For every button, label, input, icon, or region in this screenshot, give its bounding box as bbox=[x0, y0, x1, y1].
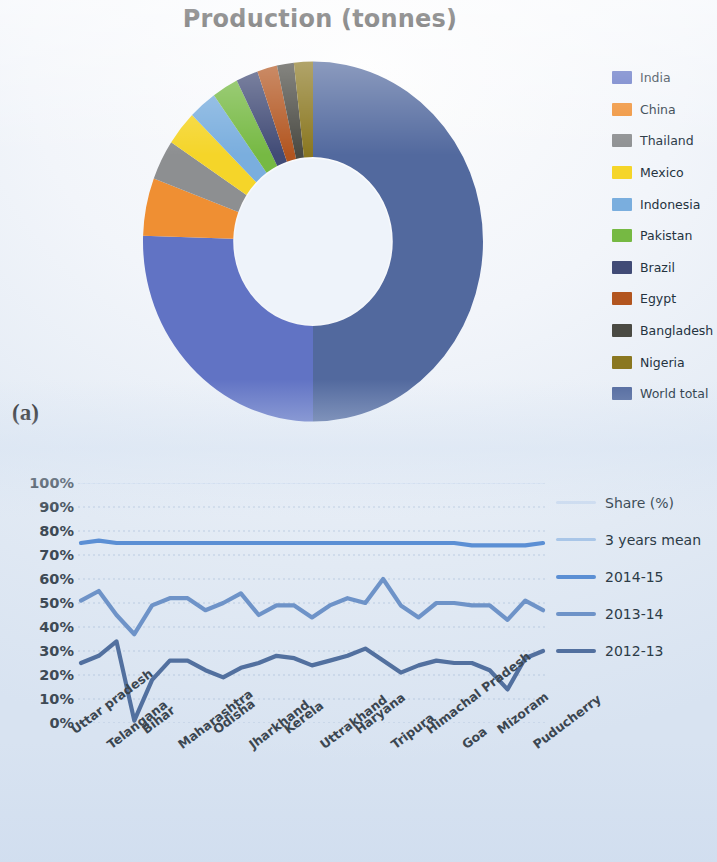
page-title: Production (tonnes) bbox=[0, 5, 640, 33]
legend-swatch-icon bbox=[612, 166, 632, 179]
pie-legend-item[interactable]: Indonesia bbox=[612, 188, 717, 220]
y-axis-tick-label: 70% bbox=[18, 547, 74, 563]
pie-legend-item[interactable]: Nigeria bbox=[612, 346, 717, 378]
legend-swatch-icon bbox=[612, 387, 632, 400]
line-legend-label: 3 years mean bbox=[605, 532, 701, 548]
y-axis-tick-label: 50% bbox=[18, 595, 74, 611]
panel-b-line-chart: 100%90%80%70%60%50%40%30%20%10%0% Uttar … bbox=[0, 448, 717, 862]
legend-swatch-icon bbox=[612, 198, 632, 211]
pie-legend-label: Bangladesh bbox=[640, 323, 713, 338]
line-legend-item[interactable]: 2012-13 bbox=[556, 632, 716, 669]
pie-legend-label: Brazil bbox=[640, 260, 675, 275]
pie-legend-item[interactable]: Thailand bbox=[612, 125, 717, 157]
legend-line-icon bbox=[556, 575, 596, 579]
donut-chart-svg bbox=[78, 44, 548, 439]
line-legend-label: 2012-13 bbox=[605, 643, 664, 659]
y-axis-tick-label: 100% bbox=[18, 475, 74, 491]
y-axis-tick-label: 20% bbox=[18, 667, 74, 683]
line-legend-label: 2013-14 bbox=[605, 606, 664, 622]
y-axis-tick-label: 30% bbox=[18, 643, 74, 659]
line-legend-item[interactable]: 2013-14 bbox=[556, 595, 716, 632]
pie-legend-item[interactable]: India bbox=[612, 62, 717, 94]
y-axis-tick-label: 40% bbox=[18, 619, 74, 635]
line-legend-item[interactable]: Share (%) bbox=[556, 484, 716, 521]
pie-legend: IndiaChinaThailandMexicoIndonesiaPakista… bbox=[612, 62, 717, 410]
legend-swatch-icon bbox=[612, 292, 632, 305]
line-legend: Share (%)3 years mean2014-152013-142012-… bbox=[556, 484, 716, 669]
legend-swatch-icon bbox=[612, 71, 632, 84]
legend-swatch-icon bbox=[612, 356, 632, 369]
x-axis-ticks: Uttar pradeshTelanganaBiharMaharashtraOd… bbox=[0, 716, 600, 862]
x-axis-tick-label: Goa bbox=[459, 724, 490, 752]
y-axis-tick-label: 90% bbox=[18, 499, 74, 515]
panel-a-label: (a) bbox=[12, 400, 39, 426]
pie-legend-label: China bbox=[640, 102, 676, 117]
pie-legend-label: Nigeria bbox=[640, 355, 685, 370]
pie-legend-item[interactable]: Pakistan bbox=[612, 220, 717, 252]
legend-swatch-icon bbox=[612, 134, 632, 147]
line-series bbox=[81, 579, 543, 634]
pie-legend-item[interactable]: Mexico bbox=[612, 157, 717, 189]
y-axis-tick-label: 10% bbox=[18, 691, 74, 707]
y-axis-ticks: 100%90%80%70%60%50%40%30%20%10%0% bbox=[18, 476, 74, 730]
legend-swatch-icon bbox=[612, 229, 632, 242]
pie-legend-item[interactable]: Brazil bbox=[612, 252, 717, 284]
pie-legend-item[interactable]: Egypt bbox=[612, 283, 717, 315]
line-legend-item[interactable]: 2014-15 bbox=[556, 558, 716, 595]
pie-legend-item[interactable]: Bangladesh bbox=[612, 315, 717, 347]
y-axis-tick-label: 80% bbox=[18, 523, 74, 539]
pie-legend-label: World total bbox=[640, 386, 708, 401]
panel-a-pie-chart: Production (tonnes) IndiaChinaThailandMe… bbox=[0, 0, 717, 448]
pie-legend-item[interactable]: World total bbox=[612, 378, 717, 410]
legend-line-icon bbox=[556, 649, 596, 653]
pie-legend-label: Egypt bbox=[640, 291, 676, 306]
legend-line-icon bbox=[556, 612, 596, 616]
legend-swatch-icon bbox=[612, 261, 632, 274]
legend-line-icon bbox=[556, 501, 596, 504]
line-legend-label: 2014-15 bbox=[605, 569, 664, 585]
line-legend-label: Share (%) bbox=[605, 495, 674, 511]
line-legend-item[interactable]: 3 years mean bbox=[556, 521, 716, 558]
donut-hole bbox=[235, 159, 391, 325]
pie-legend-item[interactable]: China bbox=[612, 94, 717, 126]
legend-swatch-icon bbox=[612, 103, 632, 116]
legend-line-icon bbox=[556, 538, 596, 541]
pie-legend-label: Indonesia bbox=[640, 197, 700, 212]
legend-swatch-icon bbox=[612, 324, 632, 337]
pie-legend-label: India bbox=[640, 70, 671, 85]
pie-legend-label: Pakistan bbox=[640, 228, 692, 243]
figure-page: Production (tonnes) IndiaChinaThailandMe… bbox=[0, 0, 717, 862]
pie-legend-label: Mexico bbox=[640, 165, 684, 180]
pie-legend-label: Thailand bbox=[640, 133, 694, 148]
donut-chart bbox=[78, 44, 548, 439]
y-axis-tick-label: 60% bbox=[18, 571, 74, 587]
